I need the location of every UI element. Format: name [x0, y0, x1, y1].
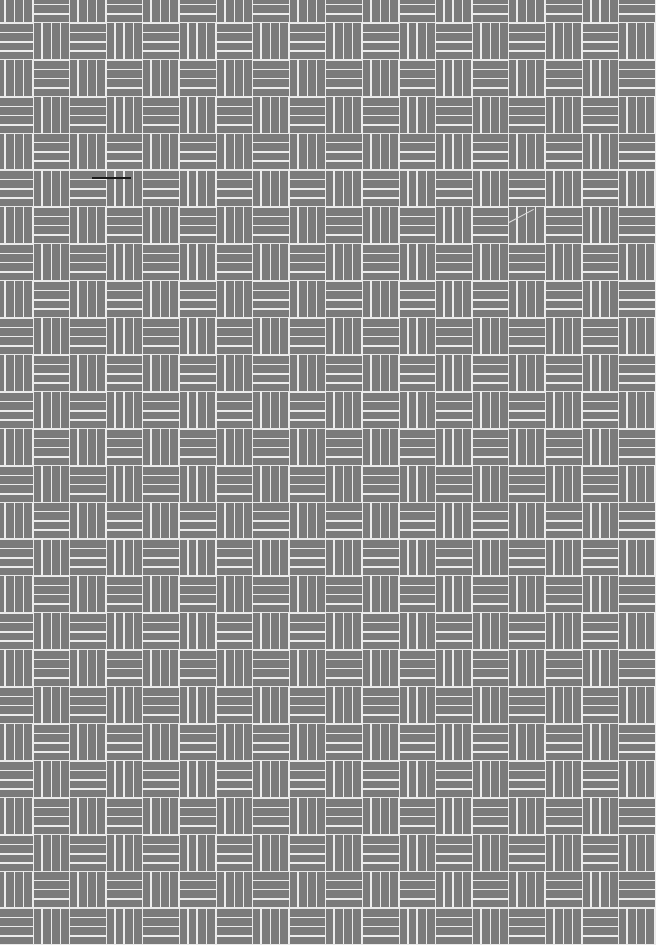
- weave-tile-horizontal: [106, 575, 144, 613]
- weave-tile-horizontal: [582, 760, 620, 798]
- weave-tile-horizontal: [582, 686, 620, 724]
- weave-tile-vertical: [216, 797, 254, 835]
- weave-tile-horizontal: [216, 391, 254, 429]
- weave-tile-horizontal: [582, 243, 620, 281]
- weave-tile-vertical: [325, 96, 363, 134]
- weave-tile-horizontal: [142, 22, 180, 60]
- weave-tile-horizontal: [325, 133, 363, 171]
- weave-tile-vertical: [216, 649, 254, 687]
- weave-tile-vertical: [69, 428, 107, 466]
- weave-tile-horizontal: [435, 243, 473, 281]
- weave-tile-horizontal: [618, 575, 656, 613]
- weave-tile-vertical: [69, 502, 107, 540]
- weave-tile-horizontal: [179, 133, 217, 171]
- weave-tile-vertical: [618, 243, 656, 281]
- weave-tile-vertical: [289, 575, 327, 613]
- weave-tile-vertical: [362, 428, 400, 466]
- weave-tile-vertical: [472, 612, 510, 650]
- weave-tile-vertical: [216, 0, 254, 23]
- weave-tile-vertical: [399, 686, 437, 724]
- weave-tile-vertical: [33, 908, 71, 945]
- weave-tile-horizontal: [289, 96, 327, 134]
- weave-tile-vertical: [179, 317, 217, 355]
- weave-tile-horizontal: [289, 908, 327, 945]
- weave-tile-vertical: [545, 465, 583, 503]
- weave-tile-horizontal: [289, 612, 327, 650]
- weave-tile-horizontal: [399, 797, 437, 835]
- weave-tile-vertical: [142, 206, 180, 244]
- weave-tile-horizontal: [472, 428, 510, 466]
- weave-tile-vertical: [325, 243, 363, 281]
- weave-tile-horizontal: [325, 206, 363, 244]
- weave-tile-horizontal: [399, 649, 437, 687]
- weave-tile-vertical: [216, 575, 254, 613]
- weave-tile-vertical: [399, 243, 437, 281]
- weave-tile-vertical: [582, 723, 620, 761]
- weave-tile-horizontal: [435, 391, 473, 429]
- weave-tile-horizontal: [69, 686, 107, 724]
- weave-tile-horizontal: [289, 317, 327, 355]
- weave-tile-horizontal: [508, 96, 546, 134]
- weave-tile-vertical: [0, 575, 34, 613]
- weave-tile-vertical: [0, 133, 34, 171]
- weave-tile-horizontal: [179, 59, 217, 97]
- weave-tile-vertical: [33, 170, 71, 208]
- weave-tile-horizontal: [362, 539, 400, 577]
- weave-tile-vertical: [325, 465, 363, 503]
- weave-tile-horizontal: [252, 723, 290, 761]
- weave-tile-horizontal: [435, 22, 473, 60]
- weave-tile-vertical: [252, 686, 290, 724]
- weave-tile-horizontal: [362, 391, 400, 429]
- weave-tile-vertical: [142, 575, 180, 613]
- weave-tile-vertical: [618, 317, 656, 355]
- weave-tile-vertical: [472, 22, 510, 60]
- weave-tile-horizontal: [472, 871, 510, 909]
- weave-tile-horizontal: [33, 354, 71, 392]
- weave-tile-vertical: [289, 280, 327, 318]
- weave-tile-vertical: [142, 871, 180, 909]
- weave-tile-vertical: [33, 96, 71, 134]
- weave-tile-horizontal: [142, 391, 180, 429]
- weave-tile-vertical: [435, 59, 473, 97]
- weave-tile-vertical: [545, 539, 583, 577]
- weave-tile-horizontal: [362, 243, 400, 281]
- weave-tile-vertical: [435, 133, 473, 171]
- weave-tile-horizontal: [252, 649, 290, 687]
- weave-tile-vertical: [362, 59, 400, 97]
- weave-tile-vertical: [142, 428, 180, 466]
- weave-tile-horizontal: [435, 908, 473, 945]
- weave-tile-vertical: [472, 391, 510, 429]
- weave-tile-horizontal: [472, 797, 510, 835]
- weave-tile-horizontal: [362, 22, 400, 60]
- weave-tile-vertical: [252, 760, 290, 798]
- weave-tile-horizontal: [399, 133, 437, 171]
- weave-tile-horizontal: [435, 317, 473, 355]
- weave-tile-vertical: [289, 59, 327, 97]
- weave-tile-horizontal: [399, 354, 437, 392]
- weave-tile-vertical: [582, 502, 620, 540]
- weave-tile-horizontal: [179, 354, 217, 392]
- weave-tile-horizontal: [69, 908, 107, 945]
- weave-tile-horizontal: [216, 465, 254, 503]
- weave-tile-vertical: [325, 391, 363, 429]
- weave-tile-vertical: [33, 834, 71, 872]
- weave-tile-vertical: [618, 96, 656, 134]
- weave-tile-vertical: [399, 539, 437, 577]
- weave-tile-vertical: [69, 797, 107, 835]
- weave-tile-vertical: [362, 723, 400, 761]
- weave-tile-vertical: [545, 612, 583, 650]
- weave-tile-vertical: [582, 59, 620, 97]
- weave-tile-horizontal: [142, 686, 180, 724]
- weave-tile-vertical: [216, 723, 254, 761]
- weave-tile-horizontal: [325, 59, 363, 97]
- weave-tile-vertical: [106, 465, 144, 503]
- weave-tile-vertical: [325, 22, 363, 60]
- weave-tile-horizontal: [289, 243, 327, 281]
- weave-tile-horizontal: [289, 834, 327, 872]
- weave-tile-vertical: [508, 797, 546, 835]
- weave-tile-vertical: [252, 612, 290, 650]
- weave-tile-horizontal: [0, 539, 34, 577]
- weave-tile-horizontal: [289, 170, 327, 208]
- weave-tile-vertical: [33, 465, 71, 503]
- weave-tile-horizontal: [618, 0, 656, 23]
